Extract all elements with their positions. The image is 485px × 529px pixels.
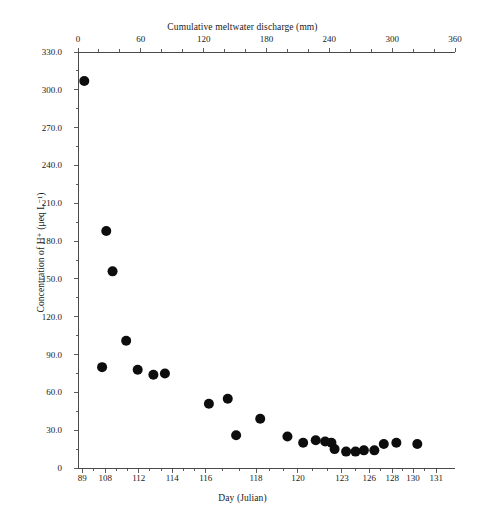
data-point bbox=[231, 430, 241, 440]
data-point bbox=[255, 414, 265, 424]
data-point bbox=[204, 399, 214, 409]
data-point bbox=[121, 336, 131, 346]
data-point bbox=[148, 370, 158, 380]
data-point bbox=[330, 444, 340, 454]
plot-area bbox=[0, 0, 485, 529]
data-point bbox=[298, 438, 308, 448]
data-point bbox=[391, 438, 401, 448]
scatter-chart-figure: Cumulative meltwater discharge (mm) Day … bbox=[0, 0, 485, 529]
data-point bbox=[379, 439, 389, 449]
data-point bbox=[160, 368, 170, 378]
data-point bbox=[351, 447, 361, 457]
data-points bbox=[79, 76, 422, 457]
data-point bbox=[223, 394, 233, 404]
data-point bbox=[133, 365, 143, 375]
data-point bbox=[282, 431, 292, 441]
data-point bbox=[79, 76, 89, 86]
data-point bbox=[341, 447, 351, 457]
axes-lines bbox=[78, 52, 455, 468]
data-point bbox=[97, 362, 107, 372]
data-point bbox=[101, 226, 111, 236]
data-point bbox=[311, 435, 321, 445]
data-point bbox=[108, 266, 118, 276]
tick-marks bbox=[74, 48, 455, 473]
data-point bbox=[369, 445, 379, 455]
data-point bbox=[359, 445, 369, 455]
data-point bbox=[412, 439, 422, 449]
